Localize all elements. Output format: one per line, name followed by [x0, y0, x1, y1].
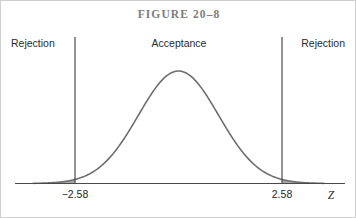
tick-label-left: −2.58 — [62, 188, 89, 200]
axis-label-z: Z — [328, 189, 334, 201]
tick-label-right: 2.58 — [272, 188, 292, 200]
bell-curve-line — [33, 71, 323, 183]
figure-container: FIGURE 20–8 Rejection Acceptance Rejecti… — [0, 0, 356, 218]
normal-curve-plot — [1, 1, 356, 218]
